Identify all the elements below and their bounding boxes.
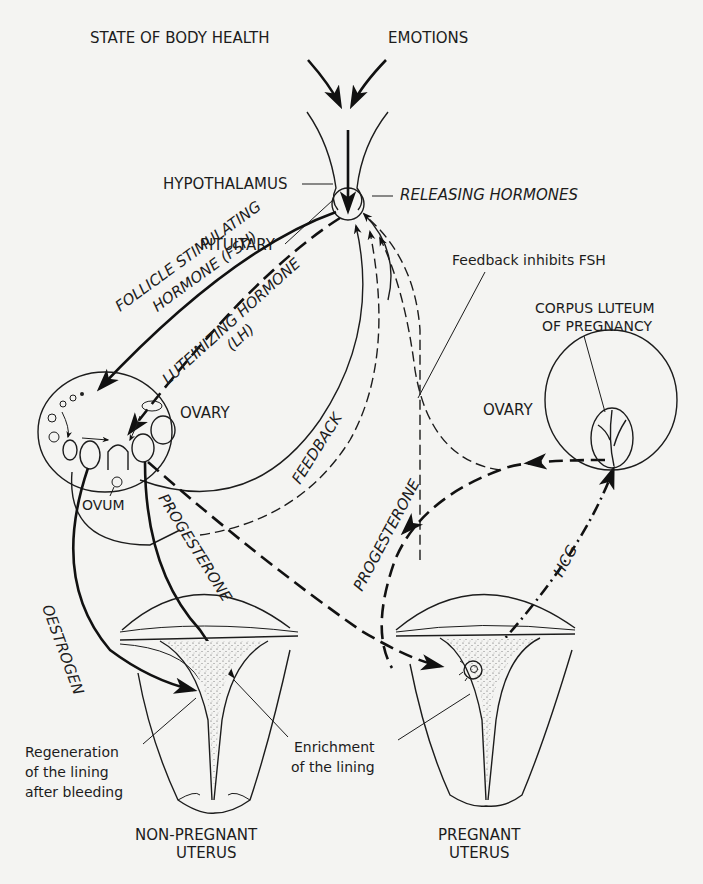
feedback-inhibits-leader	[418, 272, 485, 398]
follicle-development	[48, 392, 175, 470]
feedback-inner-line	[364, 214, 391, 300]
regeneration-leader	[143, 698, 196, 744]
non-pregnant-label-2: UTERUS	[176, 844, 237, 862]
regeneration-label-3: after bleeding	[25, 784, 123, 800]
oestrogen-label: OESTROGEN	[38, 602, 87, 697]
pregnant-label-2: UTERUS	[449, 844, 510, 862]
body-health-arrow	[308, 60, 340, 105]
non-pregnant-label-1: NON-PREGNANT	[135, 826, 258, 844]
emotions-label: EMOTIONS	[388, 29, 468, 47]
diagram-canvas: STATE OF BODY HEALTH EMOTIONS HYPOTHALAM…	[0, 0, 703, 884]
progesterone-right-label: PROGESTERONE	[350, 476, 424, 594]
left-ovary	[38, 372, 172, 492]
svg-text:LUTEINIZING HORMONE: LUTEINIZING HORMONE	[159, 254, 305, 388]
enrichment-leader-left	[234, 680, 288, 737]
pregnant-label-1: PREGNANT	[438, 826, 521, 844]
svg-text:OESTROGEN: OESTROGEN	[38, 602, 87, 697]
hypothalamus-left-wall	[307, 112, 338, 210]
ovum-label: OVUM	[82, 497, 125, 513]
corpus-luteum-folds	[598, 410, 626, 466]
menstrual-cycle-hormone-diagram: STATE OF BODY HEALTH EMOTIONS HYPOTHALAM…	[0, 0, 703, 884]
hcg-label: HCG	[550, 542, 582, 580]
progesterone-right-arrowhead-1	[528, 462, 540, 463]
right-ovary-label: OVARY	[483, 401, 534, 419]
svg-text:PROGESTERONE: PROGESTERONE	[155, 491, 236, 606]
releasing-hormones-label: RELEASING HORMONES	[400, 186, 579, 204]
enrichment-label-2: of the lining	[291, 759, 375, 775]
corpus-luteum-label-1: CORPUS LUTEUM	[535, 300, 655, 316]
left-ovary-label: OVARY	[180, 404, 231, 422]
enrichment-leader-right	[398, 694, 470, 740]
svg-text:FOLLICLE STIMULATING: FOLLICLE STIMULATING	[112, 197, 265, 315]
corpus-luteum-leader	[584, 336, 605, 412]
progesterone-left-label: PROGESTERONE	[155, 491, 236, 606]
pregnant-uterus	[396, 594, 575, 806]
body-health-label: STATE OF BODY HEALTH	[90, 29, 269, 47]
corpus-luteum-label-2: OF PREGNANCY	[542, 318, 652, 334]
regeneration-label-1: Regeneration	[25, 744, 119, 760]
regeneration-label-2: of the lining	[25, 764, 109, 780]
svg-text:PROGESTERONE: PROGESTERONE	[350, 476, 424, 594]
non-pregnant-uterus	[120, 594, 298, 813]
feedback-inhibits-fsh-label: Feedback inhibits FSH	[452, 252, 606, 268]
hypothalamus-label: HYPOTHALAMUS	[163, 175, 287, 193]
ovum-cell	[112, 477, 122, 487]
enrichment-label-1: Enrichment	[294, 739, 375, 755]
right-ovary-feedback-line	[380, 238, 500, 470]
emotions-arrow	[352, 60, 386, 105]
svg-text:HCG: HCG	[550, 542, 582, 580]
